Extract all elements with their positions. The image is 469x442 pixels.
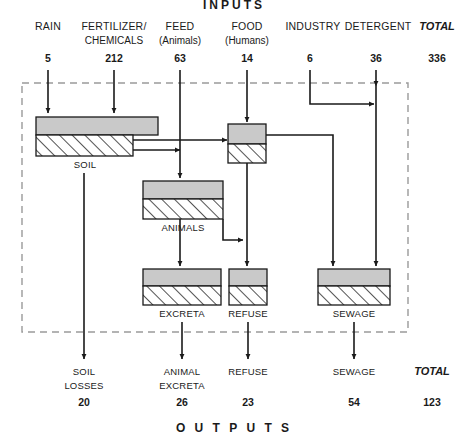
inputs-header-row: RAIN 5 FERTILIZER/ CHEMICALS 212 FEED (A… [35,20,455,64]
input-sublabel: CHEMICALS [85,35,144,46]
input-label: RAIN [35,20,61,32]
inputs-total-label: TOTAL [419,20,455,32]
input-value: 36 [370,52,382,64]
input-column-feed: FEED (Animals) 63 [159,20,201,64]
input-label: FEED [166,20,195,32]
animals-gray-bar [143,181,223,199]
excreta-hatch-bar [143,286,221,305]
outputs-total-value: 123 [423,396,441,408]
output-column-animal-excreta: ANIMAL EXCRETA 26 [159,366,205,408]
humans-gray-bar [228,124,266,144]
refuse-gray-bar [229,269,267,286]
outputs-total-label: TOTAL [414,365,450,377]
output-column-refuse: REFUSE 23 [228,366,268,408]
flow-industry-to-sewage [310,70,374,104]
output-sublabel: LOSSES [64,380,103,391]
flow-humans-to-sewage [266,135,333,266]
stock-label: REFUSE [228,308,268,319]
input-column-detergent: DETERGENT 36 [345,20,412,64]
inputs-total-value: 336 [428,52,446,64]
output-sublabel: EXCRETA [159,380,205,391]
output-value: 20 [78,396,90,408]
stock-soil: SOIL [36,117,158,170]
output-column-sewage: SEWAGE 54 [333,366,376,408]
output-value: 26 [176,396,188,408]
input-value: 5 [45,52,51,64]
input-value: 14 [241,52,253,64]
stock-label: SEWAGE [333,308,376,319]
animals-hatch-bar [143,199,223,219]
output-value: 54 [348,396,360,408]
input-column-total: TOTAL 336 [419,20,455,64]
input-value: 6 [307,52,313,64]
stock-refuse: REFUSE [228,269,268,319]
sewage-hatch-bar [318,286,390,305]
input-label: FOOD [231,20,262,32]
input-sublabel: (Humans) [225,35,269,46]
soil-hatch-bar [36,135,133,156]
output-label: SEWAGE [333,366,376,377]
output-value: 23 [242,396,254,408]
outputs-footer-row: SOIL LOSSES 20 ANIMAL EXCRETA 26 REFUSE … [64,365,450,408]
nutrient-flow-diagram: INPUTS RAIN 5 FERTILIZER/ CHEMICALS 212 … [0,0,469,442]
input-sublabel: (Animals) [159,35,201,46]
input-value: 212 [105,52,123,64]
output-label: ANIMAL [164,366,201,377]
stock-label: SOIL [74,159,96,170]
outputs-banner: O U T P U T S [176,421,292,435]
excreta-gray-bar [143,269,221,286]
input-column-food: FOOD (Humans) 14 [225,20,269,64]
output-column-soil-losses: SOIL LOSSES 20 [64,366,103,408]
diagram-canvas: INPUTS RAIN 5 FERTILIZER/ CHEMICALS 212 … [0,0,469,442]
sewage-gray-bar [318,269,390,286]
input-column-industry: INDUSTRY 6 [285,20,340,64]
input-label: FERTILIZER/ [81,20,146,32]
output-label: SOIL [73,366,95,377]
inputs-banner: INPUTS [203,0,265,12]
stock-label: EXCRETA [159,308,205,319]
refuse-hatch-bar [229,286,267,305]
flow-animals-to-humans [223,219,243,240]
soil-gray-bar [36,117,158,135]
stock-excreta: EXCRETA [143,269,221,319]
output-column-total: TOTAL 123 [414,365,450,408]
input-column-fertilizer: FERTILIZER/ CHEMICALS 212 [81,20,146,64]
input-column-rain: RAIN 5 [35,20,61,64]
stock-animals: ANIMALS [143,181,223,233]
stock-humans [228,124,266,163]
stock-sewage: SEWAGE [318,269,390,319]
stock-label: ANIMALS [161,222,204,233]
humans-hatch-bar [228,144,266,163]
output-label: REFUSE [228,366,268,377]
input-label: INDUSTRY [285,20,340,32]
input-label: DETERGENT [345,20,412,32]
input-value: 63 [174,52,186,64]
